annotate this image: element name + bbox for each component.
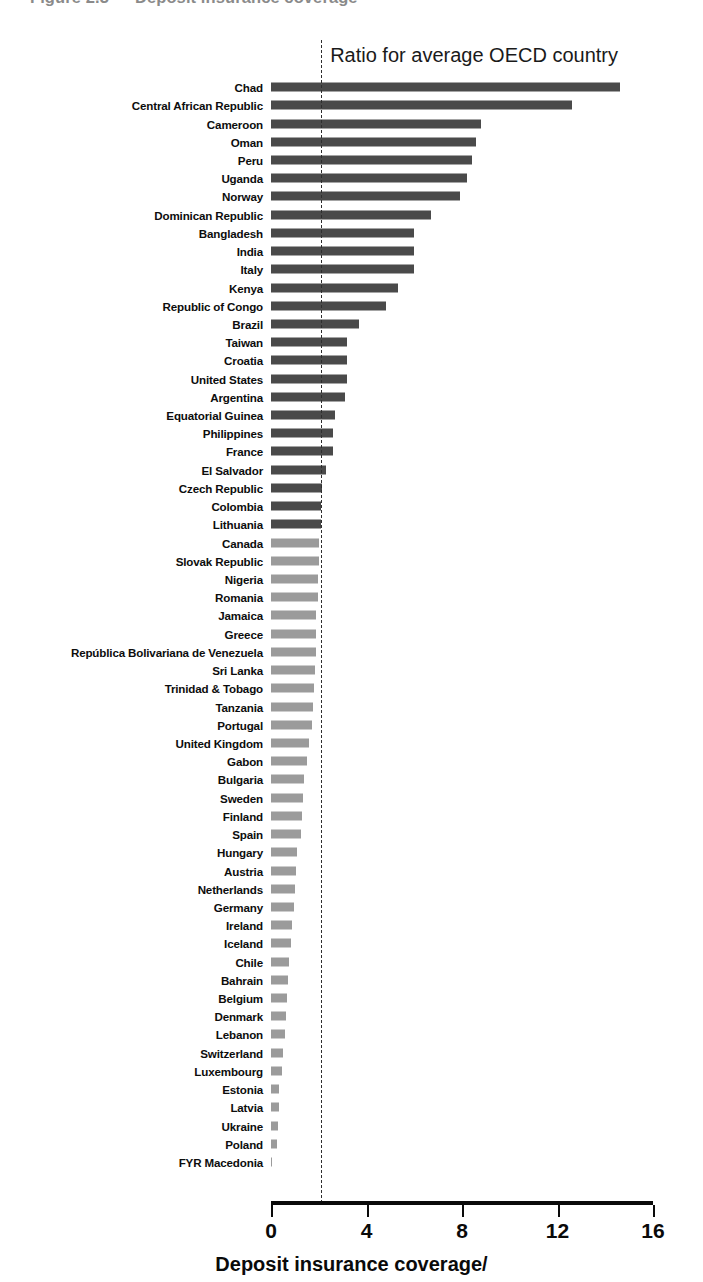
bar-row bbox=[271, 570, 703, 588]
bar bbox=[271, 1085, 279, 1094]
bar-row bbox=[271, 351, 703, 369]
bar bbox=[271, 666, 315, 675]
bar-row bbox=[271, 661, 703, 679]
category-label-row: Bulgaria bbox=[0, 770, 268, 788]
category-label-row: Sri Lanka bbox=[0, 661, 268, 679]
bar bbox=[271, 1012, 286, 1021]
bar bbox=[271, 338, 347, 347]
bar-row bbox=[271, 370, 703, 388]
bar-row bbox=[271, 752, 703, 770]
bar-row bbox=[271, 96, 703, 114]
bar bbox=[271, 811, 302, 820]
category-label: India bbox=[237, 245, 263, 258]
x-axis-tick-label: 12 bbox=[546, 1219, 569, 1243]
category-label-row: Tanzania bbox=[0, 697, 268, 715]
bar bbox=[271, 374, 347, 383]
bar bbox=[271, 939, 291, 948]
category-label-row: Jamaica bbox=[0, 606, 268, 624]
category-label-row: Iceland bbox=[0, 934, 268, 952]
x-axis-tick-label: 8 bbox=[456, 1219, 468, 1243]
bar bbox=[271, 483, 322, 492]
category-label: Ireland bbox=[226, 919, 263, 932]
category-label-row: Italy bbox=[0, 260, 268, 278]
bar bbox=[271, 538, 319, 547]
category-label-row: Slovak Republic bbox=[0, 552, 268, 570]
category-label: Romania bbox=[215, 591, 263, 604]
category-label-row: Belgium bbox=[0, 989, 268, 1007]
category-label-row: Denmark bbox=[0, 1007, 268, 1025]
bar-row bbox=[271, 1135, 703, 1153]
bar-row bbox=[271, 880, 703, 898]
category-label-row: Argentina bbox=[0, 388, 268, 406]
deposit-insurance-coverage-chart: ChadCentral African RepublicCameroonOman… bbox=[0, 0, 703, 1282]
x-axis-tick bbox=[462, 1205, 464, 1217]
bar-row bbox=[271, 406, 703, 424]
bar-row bbox=[271, 916, 703, 934]
category-label: Belgium bbox=[218, 992, 263, 1005]
bar bbox=[271, 575, 318, 584]
category-label: Nigeria bbox=[225, 573, 263, 586]
bar-row bbox=[271, 625, 703, 643]
bar-row bbox=[271, 971, 703, 989]
bar-row bbox=[271, 169, 703, 187]
category-label-row: Bangladesh bbox=[0, 224, 268, 242]
category-label: Gabon bbox=[227, 755, 263, 768]
bar-row bbox=[271, 315, 703, 333]
x-axis-tick bbox=[653, 1205, 655, 1217]
category-label: Finland bbox=[223, 809, 263, 822]
bar bbox=[271, 319, 359, 328]
bar-row bbox=[271, 424, 703, 442]
x-axis-tick-label: 4 bbox=[361, 1219, 373, 1243]
category-label-row: Poland bbox=[0, 1135, 268, 1153]
bar-row bbox=[271, 1080, 703, 1098]
bar-row bbox=[271, 679, 703, 697]
category-label-row: Oman bbox=[0, 133, 268, 151]
category-label: Chile bbox=[235, 955, 263, 968]
category-label-row: Peru bbox=[0, 151, 268, 169]
category-label: Brazil bbox=[232, 317, 263, 330]
category-label-row: United States bbox=[0, 370, 268, 388]
bar bbox=[271, 994, 287, 1003]
bar bbox=[271, 921, 292, 930]
category-label-row: Chad bbox=[0, 78, 268, 96]
category-label: Netherlands bbox=[198, 882, 263, 895]
category-label-row: FYR Macedonia bbox=[0, 1153, 268, 1171]
bar bbox=[271, 647, 316, 656]
bar bbox=[271, 702, 313, 711]
category-label: Central African Republic bbox=[132, 99, 263, 112]
bar bbox=[271, 775, 304, 784]
category-label: Switzerland bbox=[200, 1046, 263, 1059]
category-label-row: United Kingdom bbox=[0, 734, 268, 752]
category-label-row: Spain bbox=[0, 825, 268, 843]
bar-row bbox=[271, 697, 703, 715]
bar bbox=[271, 830, 301, 839]
bar bbox=[271, 757, 307, 766]
bar bbox=[271, 356, 347, 365]
bar-row bbox=[271, 898, 703, 916]
category-label-row: Trinidad & Tobago bbox=[0, 679, 268, 697]
category-label: Bulgaria bbox=[218, 773, 263, 786]
category-label: El Salvador bbox=[202, 463, 264, 476]
category-label-row: El Salvador bbox=[0, 461, 268, 479]
category-label: Canada bbox=[222, 536, 263, 549]
bar-row bbox=[271, 807, 703, 825]
bar bbox=[271, 101, 572, 110]
bar-row bbox=[271, 934, 703, 952]
category-label-row: Colombia bbox=[0, 497, 268, 515]
category-label-row: Greece bbox=[0, 625, 268, 643]
category-label: Estonia bbox=[222, 1083, 263, 1096]
bar bbox=[271, 502, 321, 511]
bar bbox=[271, 902, 294, 911]
category-label: Oman bbox=[231, 135, 263, 148]
bar-row bbox=[271, 187, 703, 205]
bar-row bbox=[271, 461, 703, 479]
category-label-row: Chile bbox=[0, 953, 268, 971]
bar bbox=[271, 192, 460, 201]
category-label-row: Taiwan bbox=[0, 333, 268, 351]
bar-row bbox=[271, 297, 703, 315]
bar bbox=[271, 848, 297, 857]
category-label: Chad bbox=[235, 81, 263, 94]
bar bbox=[271, 1139, 277, 1148]
bar bbox=[271, 465, 326, 474]
category-label-row: Germany bbox=[0, 898, 268, 916]
